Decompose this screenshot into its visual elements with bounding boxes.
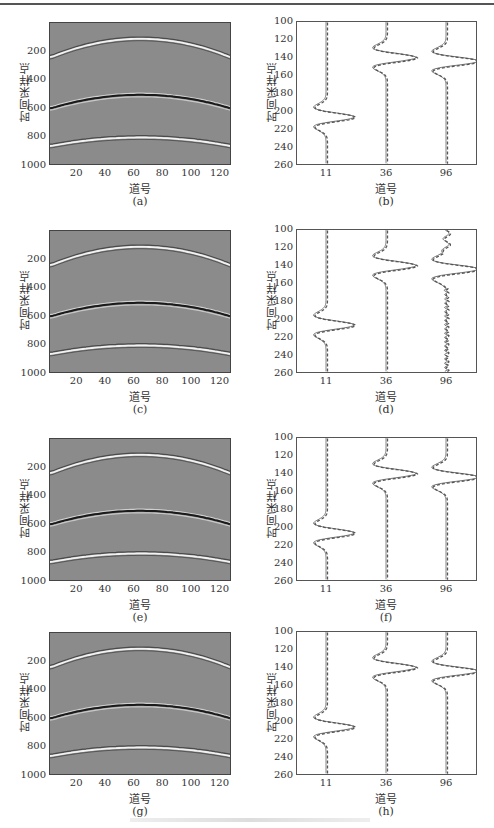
seismic-xlabel: 道号	[110, 180, 170, 196]
panel-caption: (c)	[120, 403, 160, 416]
seismic-xtick: 60	[119, 375, 149, 386]
panel-caption: (d)	[366, 403, 406, 416]
trace-ytick: 120	[263, 643, 293, 654]
panel-caption: (h)	[366, 805, 406, 818]
trace-ytick: 260	[263, 575, 293, 586]
trace-ylabel: 时间采样点	[265, 672, 281, 732]
seismic-ytick: 200	[16, 461, 46, 472]
trace-xtick: 36	[371, 167, 401, 178]
seismic-ytick: 800	[16, 740, 46, 751]
seismic-ylabel: 时间采样点	[18, 478, 34, 538]
seismic-xtick: 80	[147, 583, 177, 594]
trace-comparison-plot	[297, 230, 476, 372]
panel-caption: (e)	[120, 611, 160, 624]
trace-xtick: 36	[371, 375, 401, 386]
seismic-ytick: 1000	[16, 769, 46, 780]
trace-ytick: 240	[263, 751, 293, 762]
seismic-xtick: 40	[90, 583, 120, 594]
trace-panel-f	[296, 437, 477, 581]
seismic-xtick: 120	[205, 583, 235, 594]
seismic-xtick: 40	[90, 167, 120, 178]
trace-xtick: 36	[371, 777, 401, 788]
seismic-xtick: 80	[147, 375, 177, 386]
trace-ytick: 140	[263, 259, 293, 270]
trace-ytick: 260	[263, 159, 293, 170]
trace-xtick: 96	[431, 167, 461, 178]
panel-caption: (a)	[120, 195, 160, 208]
trace-ytick: 120	[263, 449, 293, 460]
trace-xlabel: 道号	[356, 388, 416, 404]
seismic-xtick: 100	[176, 167, 206, 178]
trace-ytick: 260	[263, 367, 293, 378]
trace-xtick: 96	[431, 777, 461, 788]
trace-ytick: 240	[263, 349, 293, 360]
trace-panel-d	[296, 229, 477, 373]
trace-panel-h	[296, 631, 477, 775]
seismic-ytick: 800	[16, 130, 46, 141]
seismic-xtick: 120	[205, 777, 235, 788]
seismic-ylabel: 时间采样点	[18, 270, 34, 330]
trace-ytick: 220	[263, 539, 293, 550]
seismic-ytick: 1000	[16, 159, 46, 170]
seismic-ytick: 1000	[16, 575, 46, 586]
trace-ytick: 240	[263, 557, 293, 568]
trace-xtick: 36	[371, 583, 401, 594]
trace-xtick: 11	[311, 375, 341, 386]
seismic-section-image	[50, 23, 230, 164]
seismic-section-image	[50, 439, 230, 580]
trace-ytick: 100	[263, 15, 293, 26]
trace-comparison-plot	[297, 632, 476, 774]
seismic-xtick: 120	[205, 375, 235, 386]
trace-ytick: 120	[263, 33, 293, 44]
trace-xtick: 96	[431, 583, 461, 594]
trace-comparison-plot	[297, 22, 476, 164]
trace-panel-b	[296, 21, 477, 165]
trace-ylabel: 时间采样点	[265, 62, 281, 122]
trace-ytick: 140	[263, 51, 293, 62]
seismic-xtick: 20	[61, 777, 91, 788]
panel-caption: (b)	[366, 195, 406, 208]
seismic-xtick: 120	[205, 167, 235, 178]
seismic-ytick: 800	[16, 338, 46, 349]
seismic-ytick: 200	[16, 45, 46, 56]
trace-ytick: 120	[263, 241, 293, 252]
trace-xtick: 96	[431, 375, 461, 386]
trace-xtick: 11	[311, 167, 341, 178]
seismic-xlabel: 道号	[110, 388, 170, 404]
seismic-xtick: 20	[61, 583, 91, 594]
trace-ytick: 140	[263, 467, 293, 478]
trace-ylabel: 时间采样点	[265, 270, 281, 330]
trace-ytick: 220	[263, 331, 293, 342]
seismic-xtick: 40	[90, 375, 120, 386]
seismic-xtick: 80	[147, 777, 177, 788]
trace-comparison-plot	[297, 438, 476, 580]
trace-ytick: 100	[263, 431, 293, 442]
trace-ytick: 220	[263, 733, 293, 744]
seismic-panel-g	[49, 632, 231, 775]
figure-caption-cutoff	[130, 818, 370, 822]
seismic-ytick: 200	[16, 253, 46, 264]
seismic-panel-e	[49, 438, 231, 581]
seismic-xtick: 100	[176, 375, 206, 386]
trace-ytick: 240	[263, 141, 293, 152]
seismic-xtick: 100	[176, 583, 206, 594]
trace-xlabel: 道号	[356, 180, 416, 196]
trace-xlabel: 道号	[356, 596, 416, 612]
seismic-panel-c	[49, 230, 231, 373]
trace-ytick: 260	[263, 769, 293, 780]
trace-ylabel: 时间采样点	[265, 478, 281, 538]
trace-ytick: 100	[263, 223, 293, 234]
seismic-ytick: 1000	[16, 367, 46, 378]
seismic-xtick: 40	[90, 777, 120, 788]
seismic-ytick: 800	[16, 546, 46, 557]
seismic-ylabel: 时间采样点	[18, 672, 34, 732]
seismic-xtick: 20	[61, 167, 91, 178]
trace-xlabel: 道号	[356, 790, 416, 806]
seismic-xlabel: 道号	[110, 790, 170, 806]
seismic-xtick: 80	[147, 167, 177, 178]
trace-ytick: 220	[263, 123, 293, 134]
seismic-xtick: 60	[119, 777, 149, 788]
seismic-xlabel: 道号	[110, 596, 170, 612]
seismic-ytick: 200	[16, 655, 46, 666]
seismic-ylabel: 时间采样点	[18, 62, 34, 122]
